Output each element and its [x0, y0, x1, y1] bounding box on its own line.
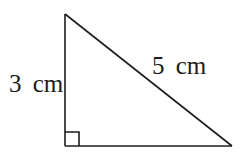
triangle-hypotenuse-line: [65, 14, 232, 146]
right-angle-marker: [65, 132, 79, 146]
triangle-diagram-canvas: 3 cm 5 cm: [0, 0, 241, 158]
vertical-side-length-label: 3 cm: [9, 70, 64, 97]
triangle-figure: 3 cm 5 cm: [0, 0, 241, 158]
hypotenuse-length-label: 5 cm: [152, 52, 207, 79]
